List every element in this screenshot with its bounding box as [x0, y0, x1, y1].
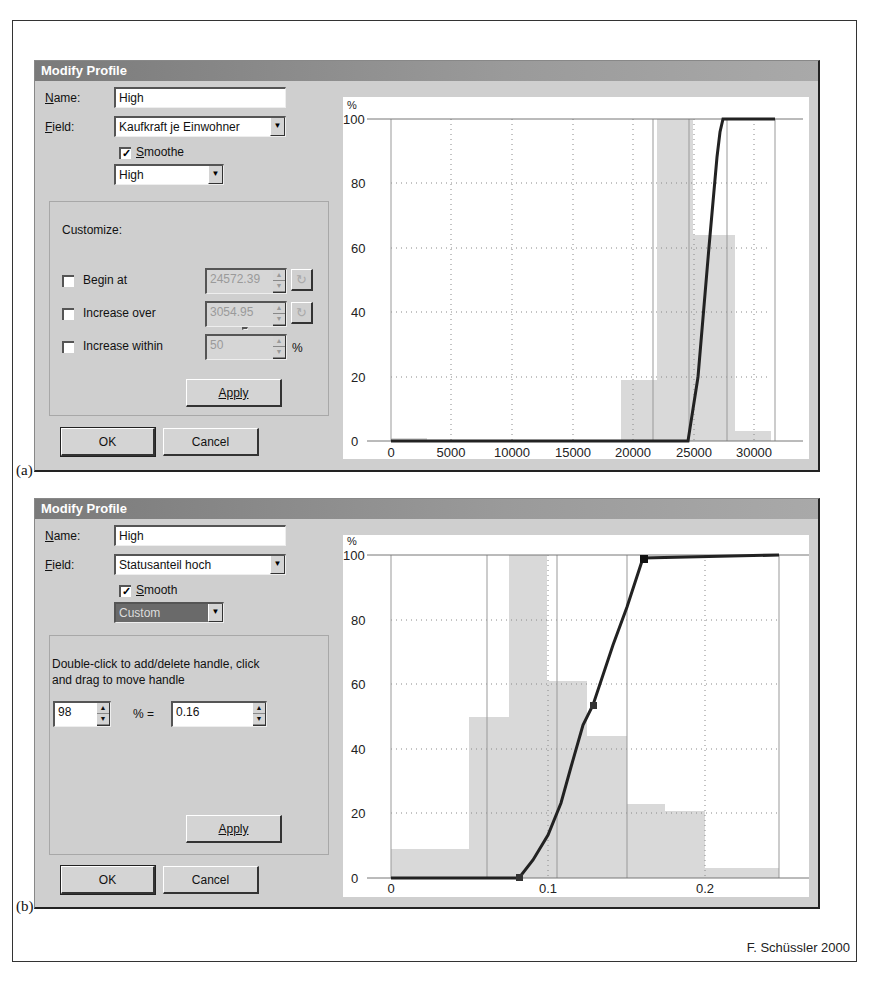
field-select-value: Kaufkraft je Einwohner	[119, 120, 240, 134]
svg-text:0: 0	[351, 871, 358, 886]
svg-text:15000: 15000	[555, 445, 591, 459]
ok-label: OK	[99, 435, 116, 449]
percent-unit: %	[292, 341, 303, 355]
pick-value-icon[interactable]: ↻	[291, 269, 313, 291]
increase-within-spinner[interactable]: ▲▼	[273, 336, 286, 359]
preset-select-value: Custom	[119, 606, 160, 620]
svg-text:0.2: 0.2	[696, 881, 714, 896]
apply-button[interactable]: Apply	[186, 379, 282, 407]
svg-text:80: 80	[351, 613, 365, 628]
svg-text:0: 0	[351, 434, 358, 449]
cancel-label: Cancel	[192, 435, 229, 449]
handle	[516, 874, 523, 881]
begin-at-stepper[interactable]	[242, 327, 248, 330]
svg-text:25000: 25000	[676, 445, 712, 459]
modify-profile-dialog-b: Modify Profile Name: High Field: Statusa…	[34, 498, 820, 909]
handle	[590, 702, 597, 709]
equals-label: % =	[133, 707, 154, 721]
handle-selected	[640, 555, 648, 563]
apply-button[interactable]: Apply	[186, 815, 282, 843]
name-input[interactable]: High	[114, 87, 286, 108]
svg-text:30000: 30000	[736, 445, 772, 459]
handle-percent-input[interactable]: 98 ▲▼	[53, 701, 111, 727]
svg-text:%: %	[347, 535, 357, 547]
cancel-button[interactable]: Cancel	[163, 866, 259, 894]
chart-a-svg[interactable]: % 100 80 60 40 20 0 0 5000 10000 15000 2…	[343, 97, 809, 459]
preset-select[interactable]: High ▼	[114, 164, 224, 185]
chevron-down-icon[interactable]: ▼	[270, 118, 285, 136]
cancel-button[interactable]: Cancel	[163, 428, 259, 456]
histogram-bars	[391, 555, 779, 878]
handle-x-value: 0.16	[176, 705, 199, 719]
increase-within-input[interactable]: 50 ▲▼	[205, 334, 287, 360]
y-axis-labels: % 100 80 60 40 20 0	[343, 535, 365, 886]
svg-text:80: 80	[351, 176, 365, 191]
svg-text:0.1: 0.1	[539, 881, 557, 896]
name-label: Name:	[45, 91, 80, 105]
increase-over-checkbox[interactable]	[62, 308, 74, 320]
svg-text:0: 0	[387, 445, 394, 459]
smooth-checkbox[interactable]: ✓	[119, 585, 131, 597]
handle-percent-spinner[interactable]: ▲▼	[97, 703, 110, 726]
name-label: Name:	[45, 529, 80, 543]
chart-b-svg[interactable]: % 100 80 60 40 20 0 0 0.1 0.2	[343, 535, 809, 897]
svg-text:20: 20	[351, 370, 365, 385]
svg-text:40: 40	[351, 305, 365, 320]
preset-select-value: High	[119, 168, 144, 182]
field-label: Field:	[45, 120, 74, 134]
svg-text:20: 20	[351, 806, 365, 821]
profile-chart-a[interactable]: % 100 80 60 40 20 0 0 5000 10000 15000 2…	[343, 97, 809, 459]
smooth-checkbox[interactable]: ✓	[119, 147, 131, 159]
apply-label: Apply	[218, 822, 248, 836]
field-select-value: Statusanteil hoch	[119, 558, 211, 572]
begin-at-value: 24572.39	[210, 272, 260, 286]
x-axis-labels: 0 0.1 0.2	[387, 881, 714, 896]
svg-text:100: 100	[343, 112, 365, 127]
begin-at-input[interactable]: 24572.39 ▲▼	[205, 268, 287, 294]
handle-x-spinner[interactable]: ▲▼	[253, 703, 266, 726]
increase-over-spinner[interactable]: ▲▼	[273, 303, 286, 326]
ok-label: OK	[99, 873, 116, 887]
increase-within-checkbox[interactable]	[62, 341, 74, 353]
chevron-down-icon[interactable]: ▼	[208, 604, 223, 622]
cancel-label: Cancel	[192, 873, 229, 887]
begin-at-spinner[interactable]: ▲▼	[273, 270, 286, 293]
svg-text:20000: 20000	[615, 445, 651, 459]
pick-value-icon[interactable]: ↻	[291, 302, 313, 324]
svg-text:0: 0	[387, 881, 394, 896]
handle-percent-value: 98	[58, 705, 71, 719]
svg-text:10000: 10000	[494, 445, 530, 459]
begin-at-checkbox[interactable]	[62, 275, 74, 287]
name-input[interactable]: High	[114, 525, 286, 546]
credit-text: F. Schüssler 2000	[747, 940, 850, 955]
svg-text:60: 60	[351, 677, 365, 692]
dialog-titlebar: Modify Profile	[35, 61, 818, 81]
svg-text:60: 60	[351, 241, 365, 256]
modify-profile-dialog-a: Modify Profile Name: High Field: Kaufkra…	[34, 60, 820, 472]
field-label: Field:	[45, 558, 74, 572]
apply-label: Apply	[218, 386, 248, 400]
chevron-down-icon[interactable]: ▼	[270, 556, 285, 574]
preset-select[interactable]: Custom ▼	[114, 602, 224, 623]
ok-button[interactable]: OK	[61, 866, 155, 894]
chevron-down-icon[interactable]: ▼	[208, 166, 223, 184]
handle-x-input[interactable]: 0.16 ▲▼	[171, 701, 267, 727]
increase-over-label: Increase over	[83, 306, 156, 320]
histogram-bars	[391, 119, 771, 441]
svg-text:5000: 5000	[437, 445, 466, 459]
field-select[interactable]: Statusanteil hoch ▼	[114, 554, 286, 575]
smooth-label: Smoothе	[136, 145, 184, 159]
svg-text:%: %	[347, 99, 357, 111]
panel-a-label: (a)	[16, 462, 33, 479]
ok-button[interactable]: OK	[61, 428, 155, 456]
y-axis-labels: % 100 80 60 40 20 0	[343, 99, 365, 449]
hint-text-line1: Double-click to add/delete handle, click	[52, 657, 259, 671]
field-select[interactable]: Kaufkraft je Einwohner ▼	[114, 116, 286, 137]
increase-within-value: 50	[210, 338, 223, 352]
increase-over-value: 3054.95	[210, 305, 253, 319]
increase-over-input[interactable]: 3054.95 ▲▼	[205, 301, 287, 327]
x-axis-labels: 0 5000 10000 15000 20000 25000 30000	[387, 445, 772, 459]
dialog-titlebar: Modify Profile	[35, 499, 818, 519]
profile-chart-b[interactable]: % 100 80 60 40 20 0 0 0.1 0.2	[343, 535, 809, 897]
svg-text:40: 40	[351, 742, 365, 757]
